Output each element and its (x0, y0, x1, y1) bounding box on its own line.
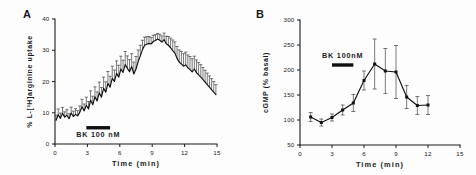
y-axis-tick-label: 0 (46, 140, 50, 147)
data-point-marker (405, 96, 408, 99)
y-axis-tick-label: 50 (287, 141, 295, 148)
x-axis-tick-label: 9 (394, 150, 398, 157)
data-point-marker (395, 71, 398, 74)
x-axis-tick-label: 0 (298, 150, 302, 157)
y-axis-tick-label: 30 (42, 46, 50, 53)
panel-a-plot: 01020304003691215Time (min)% L-[³H]argin… (0, 0, 238, 175)
data-point-marker (352, 102, 355, 105)
y-axis-tick-label: 40 (42, 15, 50, 22)
x-axis-tick-label: 6 (118, 149, 122, 156)
y-axis-tick-label: 100 (284, 116, 295, 123)
panel-b: B 5010015020025030003691215Time (min)cGM… (238, 0, 476, 175)
x-axis-tick-label: 15 (213, 149, 221, 156)
panel-b-plot: 5010015020025030003691215Time (min)cGMP … (238, 0, 476, 175)
x-axis-tick-label: 12 (424, 150, 432, 157)
y-axis-tick-label: 250 (284, 41, 295, 48)
y-axis-tick-label: 10 (42, 109, 50, 116)
figure-container: A 01020304003691215Time (min)% L-[³H]arg… (0, 0, 476, 175)
y-axis-tick-label: 300 (284, 16, 295, 23)
y-axis-tick-label: 20 (42, 78, 50, 85)
panel-a: A 01020304003691215Time (min)% L-[³H]arg… (0, 0, 238, 175)
x-axis-title: Time (min) (112, 159, 160, 168)
data-point-marker (427, 104, 430, 107)
x-axis-tick-label: 3 (86, 149, 90, 156)
x-axis-title: Time (min) (356, 160, 404, 169)
y-axis-tick-label: 150 (284, 91, 295, 98)
data-point-marker (416, 104, 419, 107)
y-axis-title: cGMP (% basal) (262, 52, 270, 113)
treatment-label: BK 100 nM (76, 130, 120, 139)
x-axis-tick-label: 15 (456, 150, 464, 157)
data-point-marker (309, 116, 312, 119)
data-point-marker (320, 121, 323, 124)
error-bars (54, 33, 217, 120)
data-point-marker (373, 63, 376, 66)
treatment-bar (332, 63, 353, 66)
data-point-marker (363, 79, 366, 82)
data-point-marker (384, 70, 387, 73)
x-axis-tick-label: 9 (150, 149, 154, 156)
treatment-label: BK 100nM (322, 51, 363, 60)
x-axis-tick-label: 12 (181, 149, 189, 156)
x-axis-tick-label: 0 (53, 149, 57, 156)
y-axis-title: % L-[³H]arginine uptake (26, 35, 34, 127)
x-axis-tick-label: 6 (362, 150, 366, 157)
data-point-marker (331, 116, 334, 119)
x-axis-tick-label: 3 (330, 150, 334, 157)
data-point-marker (341, 109, 344, 112)
y-axis-tick-label: 200 (284, 66, 295, 73)
data-series-line (311, 64, 428, 123)
